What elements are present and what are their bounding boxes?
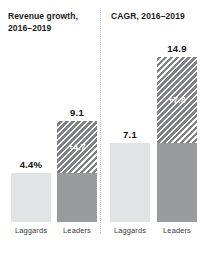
plot-area-revenue-growth: 4.4% 9.1 +4.7	[0, 0, 101, 222]
category-label-leaders-cagr: Leaders	[149, 226, 201, 235]
bar-leaders-cagr[interactable]: 14.9 +7.8	[157, 57, 197, 222]
bar-leaders-revenue[interactable]: 9.1 +4.7	[57, 121, 97, 222]
bar-group-leaders-revenue[interactable]: 9.1 +4.7	[57, 121, 97, 222]
chart-figure: Revenue growth, 2016–2019 4.4% 9.1 +4.7	[0, 0, 201, 255]
bar-laggards-revenue[interactable]: 4.4%	[11, 173, 51, 222]
delta-label-leaders-revenue: +4.7	[57, 142, 97, 152]
value-label-leaders-revenue: 9.1	[57, 107, 97, 118]
bar-segment-base-leaders-revenue	[57, 173, 97, 222]
bar-segment-base-laggards-revenue	[11, 173, 51, 222]
bar-group-laggards-cagr[interactable]: 7.1	[110, 143, 150, 222]
bar-segment-increment-leaders-cagr: +7.8	[157, 57, 197, 143]
bar-laggards-cagr[interactable]: 7.1	[110, 143, 150, 222]
panel-cagr: CAGR, 2016–2019 7.1 14.9 +7.8	[101, 0, 201, 255]
category-label-leaders-revenue: Leaders	[49, 226, 105, 235]
panel-revenue-growth: Revenue growth, 2016–2019 4.4% 9.1 +4.7	[0, 0, 101, 255]
bar-segment-increment-leaders-revenue: +4.7	[57, 121, 97, 173]
bar-group-leaders-cagr[interactable]: 14.9 +7.8	[157, 57, 197, 222]
bar-segment-base-leaders-cagr	[157, 143, 197, 222]
value-label-laggards-revenue: 4.4%	[11, 159, 51, 170]
bar-group-laggards-revenue[interactable]: 4.4%	[11, 173, 51, 222]
plot-area-cagr: 7.1 14.9 +7.8	[101, 0, 201, 222]
delta-label-leaders-cagr: +7.8	[157, 95, 197, 105]
value-label-leaders-cagr: 14.9	[157, 43, 197, 54]
bar-segment-base-laggards-cagr	[110, 143, 150, 222]
value-label-laggards-cagr: 7.1	[110, 129, 150, 140]
